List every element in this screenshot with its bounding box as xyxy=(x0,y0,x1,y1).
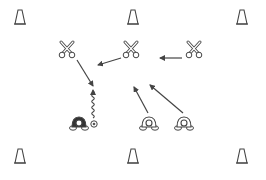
defender-icon xyxy=(59,42,75,58)
attackers-layer xyxy=(70,117,194,130)
cone-icon xyxy=(236,10,248,24)
pass-arrow xyxy=(98,58,121,65)
cone-icon xyxy=(236,149,248,163)
defender-icon xyxy=(123,42,139,58)
attacker-icon xyxy=(140,117,159,130)
drill-diagram xyxy=(0,0,266,180)
dribble-arrow xyxy=(92,90,95,118)
attacker-icon xyxy=(70,117,89,130)
cones-layer xyxy=(14,10,248,163)
cone-icon xyxy=(127,10,139,24)
cone-icon xyxy=(14,149,26,163)
defenders-layer xyxy=(59,42,202,58)
run-arrow xyxy=(150,85,183,113)
cone-icon xyxy=(14,10,26,24)
attacker-icon xyxy=(175,117,194,130)
drill-canvas xyxy=(0,0,266,180)
cone-icon xyxy=(127,149,139,163)
ball-icon xyxy=(91,121,97,127)
run-arrow xyxy=(134,87,148,113)
arrows-layer xyxy=(77,58,183,118)
run-arrow xyxy=(77,60,93,86)
defender-icon xyxy=(186,42,202,58)
ball-layer xyxy=(91,121,97,127)
